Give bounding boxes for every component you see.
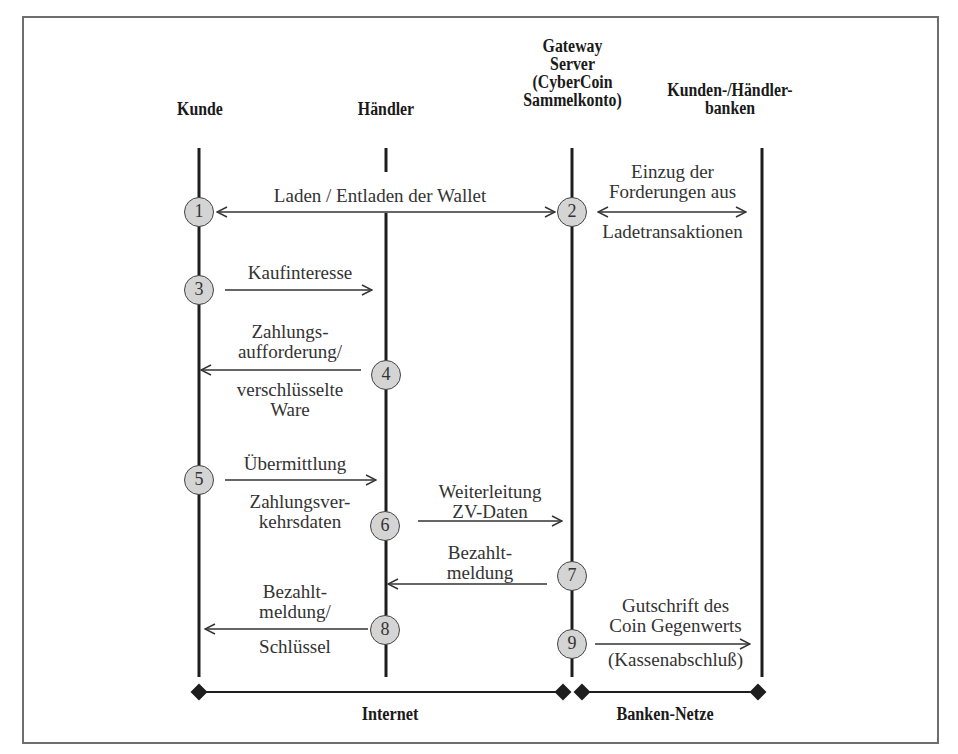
step-5-marker: 5 xyxy=(184,465,214,495)
network-banken-label: Banken-Netze xyxy=(598,704,733,725)
step-9-label-above: Gutschrift des Coin Gegenwerts xyxy=(578,596,773,636)
step-1-label: Laden / Entladen der Wallet xyxy=(220,186,540,206)
step-7-marker: 7 xyxy=(557,561,587,591)
step-3-label: Kaufinteresse xyxy=(225,263,375,283)
step-8-label-above: Bezahlt- meldung/ xyxy=(215,582,375,622)
step-5-label-above: Übermittlung xyxy=(220,454,370,474)
network-internet-label: Internet xyxy=(336,704,444,725)
step-4-label-below: verschlüsselte Ware xyxy=(210,380,370,420)
step-4-label-above: Zahlungs- aufforderung/ xyxy=(210,322,370,362)
step-4-marker: 4 xyxy=(371,360,401,390)
participant-banken: Kunden-/Händler- banken xyxy=(642,81,818,117)
step-5-label-below: Zahlungsver- kehrsdaten xyxy=(220,492,380,532)
step-7-label: Bezahlt- meldung xyxy=(400,543,560,583)
step-2-label-above: Einzug der Forderungen aus xyxy=(585,162,760,202)
step-3-marker: 3 xyxy=(184,275,214,305)
step-8-label-below: Schlüssel xyxy=(215,637,375,657)
step-6-label: Weiterleitung ZV-Daten xyxy=(410,482,570,522)
step-1-marker: 1 xyxy=(184,197,214,227)
participant-haendler: Händler xyxy=(342,100,430,118)
step-2-label-below: Ladetransaktionen xyxy=(580,222,765,242)
step-9-label-below: (Kassenabschluß) xyxy=(578,650,773,670)
participant-kunde: Kunde xyxy=(160,100,239,118)
participant-gateway: Gateway Server (CyberCoin Sammelkonto) xyxy=(500,37,645,109)
